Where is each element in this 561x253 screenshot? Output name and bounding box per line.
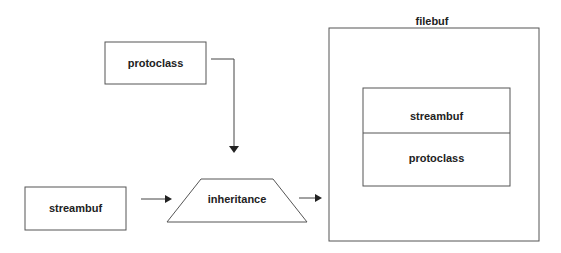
inheritance-label: inheritance [190,193,284,205]
protoclass-connector [211,59,234,146]
filebuf-title: filebuf [400,15,464,27]
arrowhead-down-icon [229,146,239,153]
protoclass-label: protoclass [105,57,206,69]
diagram-canvas [0,0,561,253]
filebuf-inner-box [363,88,510,186]
filebuf-part-streambuf: streambuf [363,110,510,122]
streambuf-label: streambuf [25,202,126,214]
filebuf-box [329,28,539,241]
arrowhead-right-icon [315,194,322,202]
arrowhead-right-icon [165,195,172,203]
filebuf-part-protoclass: protoclass [363,152,510,164]
